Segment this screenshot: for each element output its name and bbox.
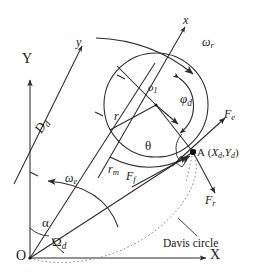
origin-label: O — [16, 249, 26, 263]
coords-close-paren: ) — [235, 146, 239, 158]
davis-circle-figure: Y X O x y o1 r rm Dd θ φd α Ωd ωr ωe — [0, 0, 262, 280]
phi-d-label: φd — [180, 92, 192, 108]
radius-letter: r — [114, 109, 119, 123]
global-x-axis-label: X — [210, 248, 220, 262]
omega-d-subscript: d — [62, 241, 67, 251]
local-axis-tick-1 — [117, 75, 125, 79]
radius-label: r — [114, 110, 119, 122]
davis-circle-caption: Davis circle — [163, 238, 218, 250]
mean-radius-subscript: m — [113, 167, 119, 177]
local-y-axis — [14, 46, 82, 184]
davis-circle-leader — [178, 218, 197, 236]
center-to-contact-line — [156, 105, 193, 152]
center-dot — [155, 104, 158, 107]
omega-r-label: ωr — [202, 36, 214, 50]
fr-subscript: r — [212, 198, 215, 208]
omega-r-subscript: r — [210, 40, 213, 50]
omega-e-subscript: e — [73, 176, 77, 186]
omega-r-arc — [96, 38, 193, 74]
local-axis-tick-3 — [30, 172, 38, 176]
omega-d-label: Ωd — [52, 235, 66, 251]
contact-point-dot — [190, 149, 196, 155]
omega-d-glyph: Ω — [52, 234, 62, 249]
local-axis-tick-2 — [95, 112, 103, 116]
local-x-axis-label: x — [183, 14, 188, 26]
contact-letter: A — [197, 146, 205, 158]
ff-subscript: f — [133, 174, 135, 184]
center-subscript: 1 — [154, 86, 158, 95]
alpha-label: α — [42, 216, 49, 229]
phi-subscript: d — [187, 98, 192, 108]
global-y-axis-label: Y — [22, 52, 32, 66]
theta-label: θ — [145, 139, 151, 152]
force-fr-label: Fr — [205, 194, 216, 208]
origin-dot — [28, 256, 31, 259]
fe-subscript: e — [231, 112, 235, 122]
omega-e-arc — [48, 181, 118, 227]
local-y-axis-label: y — [76, 36, 81, 48]
circle-center-label: o1 — [148, 82, 157, 95]
contact-point-label: A (Xd,Yd) — [197, 147, 239, 160]
alpha-glyph: α — [42, 215, 49, 230]
diagram-canvas — [0, 0, 262, 280]
theta-glyph: θ — [145, 138, 151, 153]
force-ff-label: Ff — [126, 170, 136, 184]
phi-d-inner-pointer — [156, 105, 178, 124]
mean-radius-label: rm — [108, 163, 119, 177]
force-fe-label: Fe — [224, 108, 235, 122]
omega-e-label: ωe — [65, 172, 77, 186]
